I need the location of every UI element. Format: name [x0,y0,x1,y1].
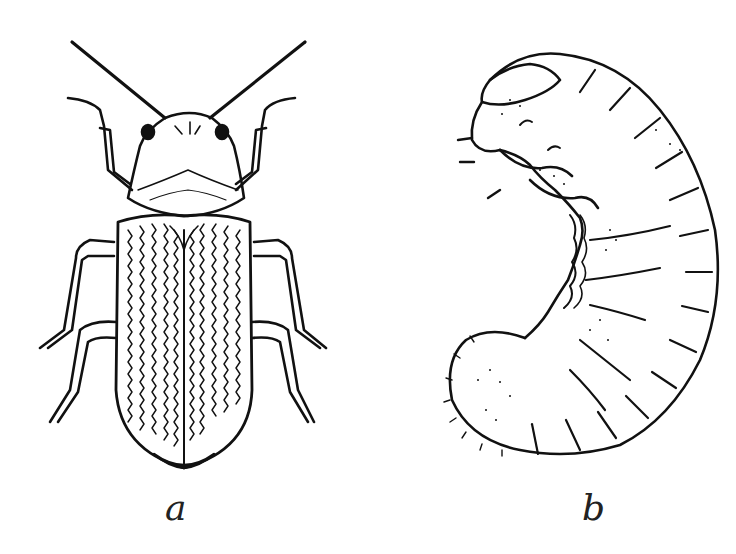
panel-label-b: b [582,490,605,526]
panel-label-a: a [165,490,186,526]
beetle-drawing [30,30,350,480]
beetle-illustration [30,30,350,480]
larva-illustration [430,40,730,470]
larva-drawing [430,40,730,470]
